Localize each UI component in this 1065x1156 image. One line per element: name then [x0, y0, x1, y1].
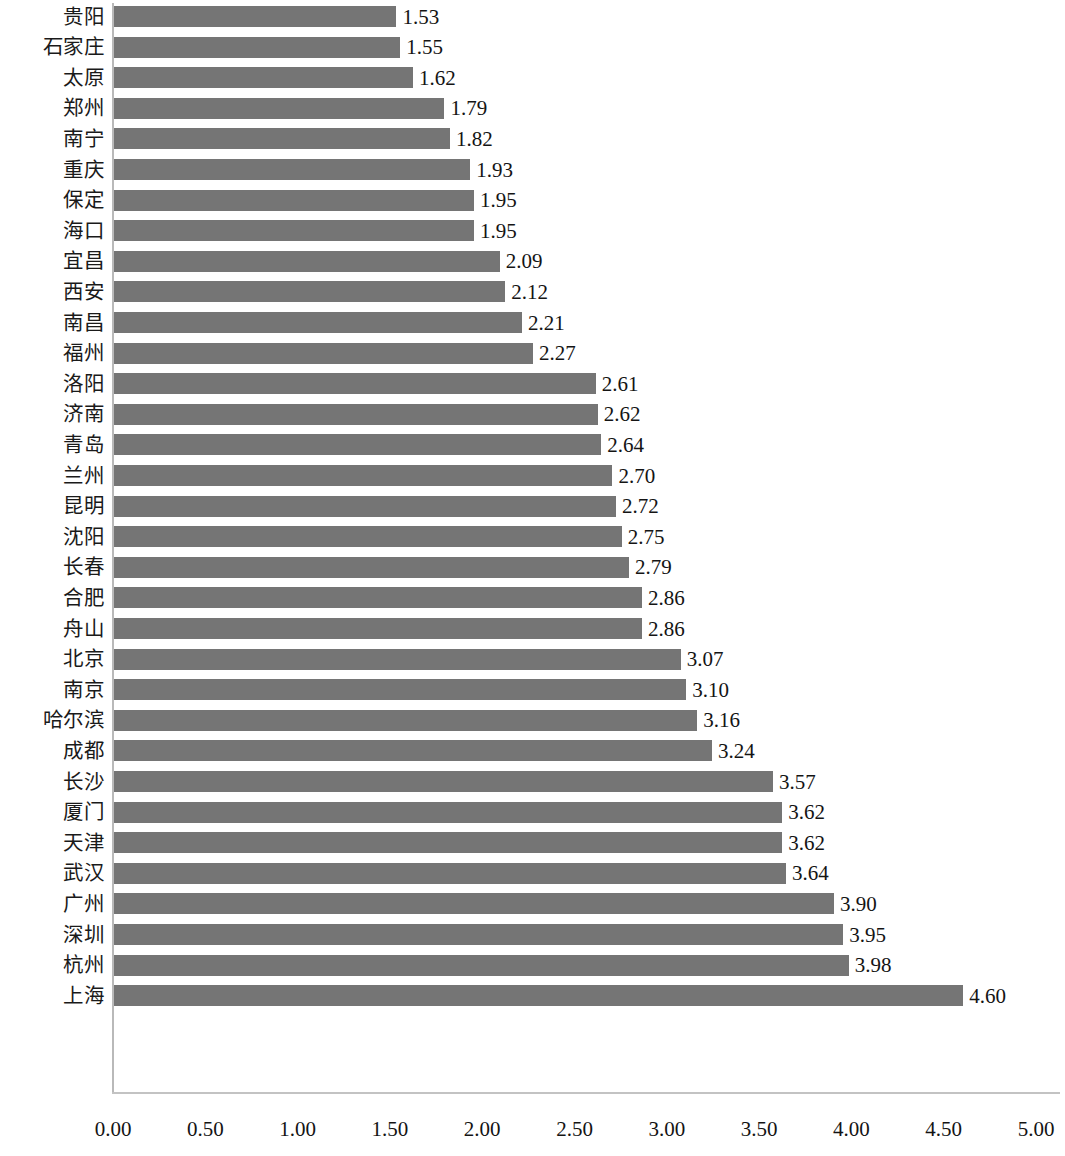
- category-label: 保定: [0, 185, 104, 216]
- x-axis-tick-label: 4.00: [806, 1112, 896, 1146]
- category-label: 洛阳: [0, 369, 104, 400]
- category-label: 宜昌: [0, 246, 104, 277]
- category-label: 杭州: [0, 950, 104, 981]
- category-label: 兰州: [0, 461, 104, 492]
- category-label: 舟山: [0, 614, 104, 645]
- category-label: 贵阳: [0, 2, 104, 33]
- x-axis-tick-labels: 0.000.501.001.502.002.503.003.504.004.50…: [0, 1112, 1065, 1156]
- bar-chart: 贵阳1.53石家庄1.55太原1.62郑州1.79南宁1.82重庆1.93保定1…: [0, 0, 1065, 1156]
- category-label: 青岛: [0, 430, 104, 461]
- category-label: 重庆: [0, 155, 104, 186]
- x-axis-tick-label: 3.50: [714, 1112, 804, 1146]
- category-label: 南宁: [0, 124, 104, 155]
- x-axis-tick-label: 0.00: [68, 1112, 158, 1146]
- category-label: 广州: [0, 889, 104, 920]
- category-label: 成都: [0, 736, 104, 767]
- category-label: 南京: [0, 675, 104, 706]
- category-label: 长春: [0, 552, 104, 583]
- category-label: 长沙: [0, 767, 104, 798]
- category-label: 深圳: [0, 920, 104, 951]
- x-axis-tick-label: 4.50: [899, 1112, 989, 1146]
- category-label: 天津: [0, 828, 104, 859]
- category-label: 济南: [0, 399, 104, 430]
- x-axis-tick-label: 2.00: [437, 1112, 527, 1146]
- category-label: 福州: [0, 338, 104, 369]
- category-label: 海口: [0, 216, 104, 247]
- category-label: 西安: [0, 277, 104, 308]
- category-label: 北京: [0, 644, 104, 675]
- category-label: 太原: [0, 63, 104, 94]
- category-label: 上海: [0, 981, 104, 1012]
- x-axis-tick-label: 5.00: [991, 1112, 1065, 1146]
- x-axis-tick-label: 3.00: [622, 1112, 712, 1146]
- x-axis-tick-label: 1.00: [253, 1112, 343, 1146]
- category-label: 昆明: [0, 491, 104, 522]
- category-label: 郑州: [0, 93, 104, 124]
- plot-area: [113, 0, 1060, 1094]
- x-axis-tick-label: 0.50: [160, 1112, 250, 1146]
- category-label: 合肥: [0, 583, 104, 614]
- x-axis-tick-label: 2.50: [530, 1112, 620, 1146]
- category-label: 哈尔滨: [0, 705, 104, 736]
- category-label: 石家庄: [0, 32, 104, 63]
- x-axis-tick-label: 1.50: [345, 1112, 435, 1146]
- category-label: 南昌: [0, 308, 104, 339]
- category-label: 沈阳: [0, 522, 104, 553]
- category-label: 厦门: [0, 797, 104, 828]
- category-label: 武汉: [0, 858, 104, 889]
